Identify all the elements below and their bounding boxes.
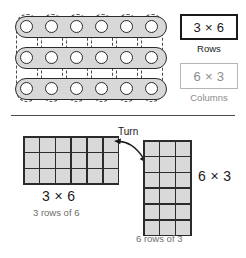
- grid-cell: [145, 173, 159, 187]
- array-dot: [45, 82, 58, 95]
- grid-cell: [145, 205, 159, 219]
- grid-cell: [160, 173, 174, 187]
- rows-caption: Rows: [180, 43, 238, 54]
- grid-cell: [40, 153, 54, 167]
- grid-cell: [145, 142, 159, 156]
- array-dot: [120, 51, 133, 64]
- grid-cell: [176, 205, 190, 219]
- grid-cell: [72, 169, 86, 183]
- array-dot: [95, 20, 108, 33]
- array-dot: [20, 82, 33, 95]
- array-dot: [95, 51, 108, 64]
- right-grid-expression: 6 × 3: [198, 168, 232, 184]
- array-dot: [95, 82, 108, 95]
- grid-cell: [176, 157, 190, 171]
- grid-cell: [145, 189, 159, 203]
- legend-block: 3 × 6 Rows 6 × 3 Columns: [180, 14, 238, 103]
- array-dot: [120, 20, 133, 33]
- grid-cell: [160, 189, 174, 203]
- grid-cell: [88, 138, 102, 152]
- grid-cell: [88, 169, 102, 183]
- array-dot: [120, 82, 133, 95]
- grid-cell: [40, 138, 54, 152]
- array-dot: [20, 51, 33, 64]
- columns-caption: Columns: [180, 92, 238, 103]
- grid-cell: [160, 142, 174, 156]
- left-grid-expression: 3 × 6: [42, 188, 76, 204]
- array-dot: [45, 20, 58, 33]
- dot-array: [14, 14, 170, 102]
- grid-cell: [25, 153, 39, 167]
- grid-6-by-3: [143, 140, 192, 236]
- columns-expression-box: 6 × 3: [180, 63, 238, 89]
- grid-cell: [56, 169, 70, 183]
- legend-spacer: [180, 54, 238, 63]
- grid-cell: [160, 205, 174, 219]
- grid-cell: [25, 138, 39, 152]
- array-dot: [20, 20, 33, 33]
- rows-and-columns-panel: 3 × 6 Rows 6 × 3 Columns: [0, 0, 246, 115]
- grid-cell: [40, 169, 54, 183]
- left-grid-description: 3 rows of 6: [33, 207, 79, 218]
- array-dot: [70, 20, 83, 33]
- grid-3-by-6: [23, 136, 119, 185]
- turn-comparison-panel: 3 × 6 3 rows of 6 Turn: [0, 116, 246, 258]
- right-grid-description: 6 rows of 3: [136, 233, 182, 244]
- grid-cell: [72, 153, 86, 167]
- grid-cell: [72, 138, 86, 152]
- array-dot: [70, 51, 83, 64]
- array-dot: [70, 82, 83, 95]
- array-dot: [45, 51, 58, 64]
- grid-cell: [56, 138, 70, 152]
- array-dot: [145, 82, 158, 95]
- grid-cell: [88, 153, 102, 167]
- grid-cell: [25, 169, 39, 183]
- figure-canvas: 3 × 6 Rows 6 × 3 Columns: [0, 0, 246, 258]
- grid-cell: [145, 157, 159, 171]
- array-dot: [145, 51, 158, 64]
- grid-cell: [56, 153, 70, 167]
- grid-cell: [104, 169, 118, 183]
- grid-cell: [176, 142, 190, 156]
- grid-cell: [160, 157, 174, 171]
- rows-expression-box: 3 × 6: [180, 14, 238, 40]
- grid-cell: [176, 173, 190, 187]
- grid-cell: [176, 189, 190, 203]
- array-dot: [145, 20, 158, 33]
